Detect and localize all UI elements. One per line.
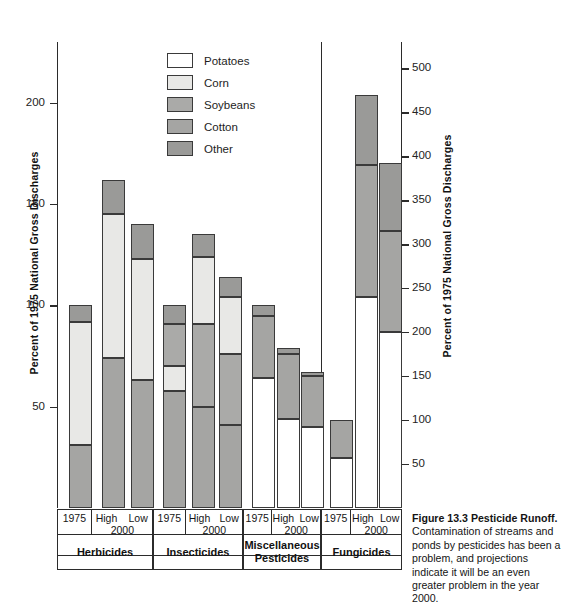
right-tick-mark (402, 200, 409, 201)
bar-segment-soybeans (192, 324, 215, 407)
bar-segment-other (301, 372, 324, 376)
group-label-insecticides: Insecticides (153, 534, 243, 570)
label-high: High (271, 512, 297, 524)
label-low: Low (376, 512, 403, 524)
group-label-herbicides: Herbicides (57, 534, 153, 570)
group-label-row: HerbicidesInsecticidesMiscellaneousPesti… (57, 534, 402, 570)
right-tick-label: 50 (412, 457, 446, 469)
bar-segment-corn (131, 259, 154, 381)
bar-segment-cotton (301, 376, 324, 427)
bar-segment-other (102, 180, 125, 214)
scenario-row-top-rule (57, 509, 402, 510)
right-tick-mark (402, 464, 409, 465)
right-tick-mark (402, 156, 409, 157)
caption-title: Figure 13.3 Pesticide Runoff. (412, 512, 557, 524)
group-label-miscellaneous-pesticides: MiscellaneousPesticides (243, 534, 321, 570)
left-tick-mark (50, 407, 57, 408)
bar-insecticides-high-2000 (192, 234, 215, 508)
label-low: Low (214, 512, 244, 524)
bar-segment-corn (163, 366, 186, 390)
bar-segment-cotton (219, 425, 242, 508)
bar-segment-soybeans (163, 324, 186, 367)
bar-segment-corn (102, 214, 125, 358)
figure-caption: Figure 13.3 Pesticide Runoff. Contaminat… (412, 512, 564, 606)
left-axis-line (57, 42, 58, 508)
right-tick-mark (402, 420, 409, 421)
bar-segment-cotton (379, 231, 402, 332)
label-low: Low (296, 512, 322, 524)
right-tick-mark (402, 112, 409, 113)
label-high: High (91, 512, 123, 524)
label-1975: 1975 (58, 512, 91, 524)
bar-segment-potatoes (355, 297, 378, 508)
bar-segment-corn (192, 257, 215, 324)
bar-segment-other (379, 163, 402, 231)
label-high: High (350, 512, 377, 524)
bar-segment-cotton (102, 358, 125, 508)
bar-herbicides-high-2000 (102, 180, 125, 508)
right-tick-mark (402, 288, 409, 289)
bar-miscellaneous-pesticides-low-2000 (301, 372, 324, 508)
bar-insecticides-1975 (163, 305, 186, 508)
bar-segment-soybeans (219, 354, 242, 425)
left-tick-mark (50, 305, 57, 306)
bar-segment-cotton (192, 407, 215, 508)
bar-segment-potatoes (277, 419, 300, 508)
bar-fungicides-1975 (330, 420, 353, 508)
bar-segment-potatoes (252, 378, 275, 508)
bar-segment-other (252, 305, 275, 315)
bar-segment-potatoes (379, 332, 402, 508)
bar-segment-corn (69, 322, 92, 446)
right-tick-mark (402, 244, 409, 245)
caption-body: Contamination of streams and ponds by pe… (412, 525, 560, 604)
bar-segment-cotton (69, 445, 92, 508)
right-tick-mark (402, 332, 409, 333)
bar-herbicides-1975 (69, 305, 92, 508)
bar-segment-cotton (330, 420, 353, 458)
label-high: High (185, 512, 215, 524)
bar-segment-other (131, 224, 154, 258)
bar-insecticides-low-2000 (219, 277, 242, 508)
bar-segment-other (192, 234, 215, 256)
plot-area: 50100150200 5010015020025030035040045050… (57, 42, 402, 508)
bar-segment-corn (219, 297, 242, 354)
right-axis-title: Percent of 1975 National Gross Discharge… (441, 36, 453, 456)
label-low: Low (122, 512, 154, 524)
bar-segment-other (355, 95, 378, 165)
bar-miscellaneous-pesticides-1975 (252, 305, 275, 508)
label-1975: 1975 (244, 512, 271, 524)
bar-segment-cotton (277, 354, 300, 419)
bar-segment-cotton (163, 391, 186, 509)
bar-segment-other (163, 305, 186, 323)
right-tick-mark (402, 68, 409, 69)
bar-segment-other (69, 305, 92, 321)
bar-segment-cotton (131, 380, 154, 508)
bar-segment-potatoes (301, 427, 324, 508)
bar-segment-other (219, 277, 242, 297)
label-1975: 1975 (154, 512, 185, 524)
label-1975: 1975 (322, 512, 350, 524)
bar-miscellaneous-pesticides-high-2000 (277, 348, 300, 508)
left-tick-mark (50, 204, 57, 205)
left-tick-mark (50, 103, 57, 104)
bar-segment-other (277, 348, 300, 354)
bar-segment-cotton (355, 165, 378, 297)
right-tick-mark (402, 376, 409, 377)
bar-segment-potatoes (330, 458, 353, 508)
bar-herbicides-low-2000 (131, 224, 154, 508)
group-label-fungicides: Fungicides (321, 534, 402, 570)
bar-segment-cotton (252, 316, 275, 379)
left-axis-title: Percent of 1975 National Gross Discharge… (28, 53, 40, 473)
bar-fungicides-high-2000 (355, 95, 378, 508)
bar-fungicides-low-2000 (379, 163, 402, 508)
